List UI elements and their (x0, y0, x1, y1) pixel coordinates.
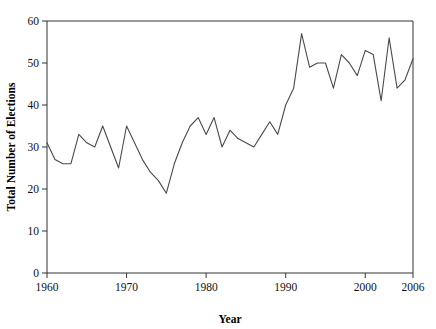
line-chart: 0102030405060 196019701980199020002006 Y… (0, 0, 436, 329)
x-tick-label: 1960 (36, 281, 59, 293)
x-tick-label: 2000 (354, 281, 377, 293)
plot-frame (47, 21, 413, 273)
x-tick-label: 1990 (274, 281, 297, 293)
y-tick-label: 10 (28, 225, 40, 237)
y-axis-title: Total Number of Elections (5, 82, 17, 211)
data-series-group (47, 34, 413, 194)
y-axis-ticks: 0102030405060 (28, 15, 48, 279)
x-tick-label: 2006 (402, 281, 425, 293)
y-tick-label: 0 (33, 267, 39, 279)
y-tick-label: 40 (28, 99, 40, 111)
chart-figure: 0102030405060 196019701980199020002006 Y… (0, 0, 436, 329)
y-tick-label: 30 (28, 141, 40, 153)
y-tick-label: 50 (28, 57, 40, 69)
x-tick-label: 1970 (115, 281, 138, 293)
x-axis-title: Year (219, 313, 242, 325)
y-tick-label: 20 (28, 183, 40, 195)
elections-line (47, 34, 413, 194)
x-axis-ticks: 196019701980199020002006 (36, 273, 425, 293)
y-tick-label: 60 (28, 15, 40, 27)
x-tick-label: 1980 (195, 281, 218, 293)
